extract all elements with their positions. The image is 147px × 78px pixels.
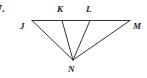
segment-JN xyxy=(32,21,73,61)
vertex-label-l: L xyxy=(86,5,92,14)
vertex-label-m: M xyxy=(133,22,141,31)
vertex-label-k: K xyxy=(57,5,63,14)
vertex-label-n: N xyxy=(68,65,75,74)
vertex-label-j: J xyxy=(20,22,25,31)
geometry-figure: 7. J K L M N xyxy=(0,0,147,78)
